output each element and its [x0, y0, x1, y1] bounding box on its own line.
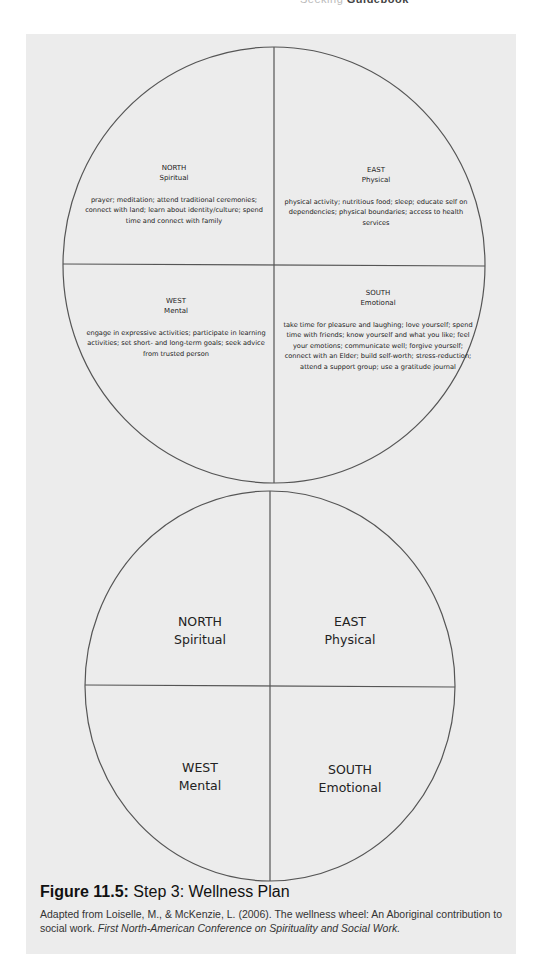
east-quadrant-detailed: EAST Physical physical activity; nutriti…: [284, 165, 468, 228]
south-aspect: Emotional: [280, 298, 476, 308]
south-direction: SOUTH: [290, 761, 410, 779]
east-direction: EAST: [284, 165, 468, 175]
figure-title: Figure 11.5: Step 3: Wellness Plan: [40, 882, 520, 902]
figure-label: Figure 11.5:: [40, 883, 129, 900]
east-aspect: Physical: [284, 175, 468, 185]
source-conference: First North-American Conference on Spiri…: [98, 922, 400, 934]
west-quadrant-detailed: WEST Mental engage in expressive activit…: [82, 296, 270, 359]
wheel-blank-shape: [85, 491, 455, 881]
east-aspect: Physical: [290, 631, 410, 649]
north-quadrant-detailed: NORTH Spiritual prayer; meditation; atte…: [80, 163, 268, 226]
west-description: engage in expressive activities; partici…: [82, 328, 270, 359]
east-description: physical activity; nutritious food; slee…: [284, 197, 468, 228]
north-direction: NORTH: [140, 613, 260, 631]
east-direction: EAST: [290, 613, 410, 631]
west-aspect: Mental: [82, 306, 270, 316]
figure-title-text: Step 3: Wellness Plan: [129, 883, 290, 900]
south-quadrant-detailed: SOUTH Emotional take time for pleasure a…: [280, 288, 476, 372]
west-quadrant-blank: WEST Mental: [140, 759, 260, 795]
figure-source: Adapted from Loiselle, M., & McKenzie, L…: [40, 907, 520, 935]
wheel-detailed-shape: [63, 47, 485, 483]
north-description: prayer; meditation; attend traditional c…: [80, 195, 268, 226]
south-quadrant-blank: SOUTH Emotional: [290, 761, 410, 797]
north-quadrant-blank: NORTH Spiritual: [140, 613, 260, 649]
figure-caption: Figure 11.5: Step 3: Wellness Plan Adapt…: [40, 882, 520, 935]
west-direction: WEST: [140, 759, 260, 777]
east-quadrant-blank: EAST Physical: [290, 613, 410, 649]
north-aspect: Spiritual: [80, 173, 268, 183]
west-aspect: Mental: [140, 777, 260, 795]
north-aspect: Spiritual: [140, 631, 260, 649]
north-direction: NORTH: [80, 163, 268, 173]
south-aspect: Emotional: [290, 779, 410, 797]
south-direction: SOUTH: [280, 288, 476, 298]
west-direction: WEST: [82, 296, 270, 306]
south-description: take time for pleasure and laughing; lov…: [280, 320, 476, 372]
